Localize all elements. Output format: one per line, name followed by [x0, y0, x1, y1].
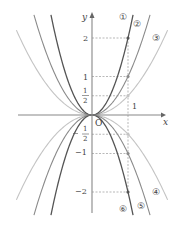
curve-label-4: ④ — [152, 187, 160, 197]
curve-label-2: ② — [133, 19, 141, 29]
point-curve-6 — [126, 190, 129, 193]
point-curve-2 — [126, 75, 129, 78]
y-axis-label: y — [81, 12, 88, 22]
curve-label-6: ⑥ — [119, 204, 127, 214]
y-tick-neg1: −1 — [75, 148, 87, 157]
point-curve-3 — [126, 94, 129, 97]
parabola-diagram: y x O 1 2 1 1 2 1 2 −1 −2 ① ② ③ ④ ⑤ ⑥ — [0, 0, 186, 237]
y-tick-neg-half-numerator: 1 — [83, 125, 87, 133]
y-tick-half-numerator: 1 — [83, 87, 87, 95]
y-tick-1: 1 — [83, 73, 88, 82]
y-tick-neg-half-denominator: 2 — [83, 135, 87, 143]
point-curve-5 — [126, 152, 129, 155]
curve-label-5: ⑤ — [137, 201, 145, 211]
y-axis-arrow-icon — [90, 12, 95, 18]
curve-label-3: ③ — [152, 33, 160, 43]
y-tick-2: 2 — [83, 34, 88, 43]
y-tick-neg2: −2 — [75, 187, 87, 196]
origin-label: O — [95, 118, 102, 128]
point-curve-1 — [126, 36, 129, 39]
x-unit-label: 1 — [132, 102, 137, 111]
curve-label-1: ① — [119, 12, 127, 22]
y-tick-half-denominator: 2 — [83, 97, 87, 105]
x-axis-label: x — [163, 117, 168, 127]
point-curve-4 — [126, 133, 129, 136]
